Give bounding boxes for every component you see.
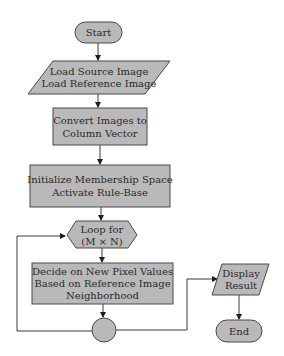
node-loop: Loop for (M × N) <box>67 221 137 248</box>
node-decide: Decide on New Pixel Values Based on Refe… <box>32 263 173 304</box>
node-connector <box>92 318 116 342</box>
node-label: Start <box>86 27 112 38</box>
node-label: Column Vector <box>62 128 137 139</box>
node-label: Convert Images to <box>53 115 147 126</box>
flowchart: Start Load Source Image Load Reference I… <box>0 0 284 356</box>
node-start: Start <box>75 22 122 43</box>
node-label: Neighborhood <box>66 290 139 301</box>
node-convert: Convert Images to Column Vector <box>53 108 147 145</box>
node-label: Activate Rule-Base <box>51 187 148 198</box>
node-label: Loop for <box>81 224 124 235</box>
node-display: Display Result <box>212 264 269 295</box>
node-label: (M × N) <box>81 236 123 247</box>
node-label: End <box>229 326 250 337</box>
node-init: Initialize Membership Space Activate Rul… <box>27 165 172 207</box>
node-label: Based on Reference Image <box>34 278 170 289</box>
process-shape <box>53 108 147 145</box>
connector-circle <box>92 318 116 342</box>
node-label: Decide on New Pixel Values <box>32 266 173 277</box>
node-load: Load Source Image Load Reference Image <box>28 61 170 94</box>
node-label: Display <box>222 268 260 279</box>
node-label: Load Source Image <box>50 66 149 77</box>
process-shape <box>30 165 170 207</box>
node-end: End <box>216 320 262 342</box>
node-label: Initialize Membership Space <box>27 174 172 185</box>
node-label: Result <box>225 280 257 291</box>
node-label: Load Reference Image <box>42 78 157 89</box>
